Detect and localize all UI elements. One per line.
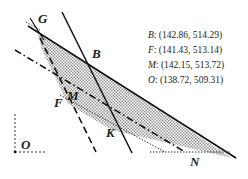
point-label-n: N <box>190 155 199 168</box>
point-label-f: F <box>54 96 63 109</box>
point-label-k: K <box>106 126 115 139</box>
diagram-canvas <box>0 0 248 179</box>
coord-row-m: M: (142.15, 513.72) <box>148 58 224 73</box>
coord-row-o: O: (138.72, 509.31) <box>148 73 224 88</box>
coord-row-b: B: (142.86, 514.29) <box>148 28 224 43</box>
point-label-o: O <box>21 138 30 151</box>
coord-row-f: F: (141.43, 513.14) <box>148 43 224 58</box>
origin-dot <box>14 151 17 154</box>
point-label-b: B <box>92 47 101 60</box>
point-label-m: M <box>67 89 79 102</box>
point-label-g: G <box>38 12 47 25</box>
geometry-diagram: G B M F K N O B: (142.86, 514.29) F: (14… <box>0 0 248 179</box>
coordinates-legend: B: (142.86, 514.29) F: (141.43, 513.14) … <box>148 28 224 88</box>
